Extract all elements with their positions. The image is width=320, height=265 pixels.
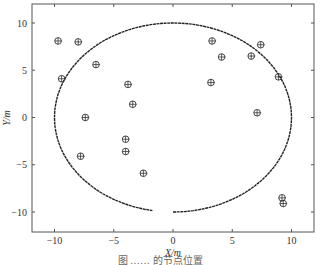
figure-caption: 图 …… 的节点位置 [0,252,320,265]
x-tick-label: 10 [287,235,297,246]
scatter-chart: −10−50510−10−50510X/mY/m [0,0,320,265]
x-tick-label: −10 [47,235,63,246]
x-tick-label: 0 [171,235,176,246]
y-tick-label: 5 [22,65,27,76]
y-tick-label: −10 [11,207,27,218]
x-tick-label: −5 [108,235,119,246]
y-tick-label: 10 [17,18,27,29]
y-axis-label: Y/m [1,110,12,126]
y-tick-label: 0 [22,112,27,123]
y-tick-label: −5 [16,159,27,170]
boundary-curve [55,23,292,212]
plot-frame [32,4,314,232]
x-tick-label: 5 [230,235,235,246]
